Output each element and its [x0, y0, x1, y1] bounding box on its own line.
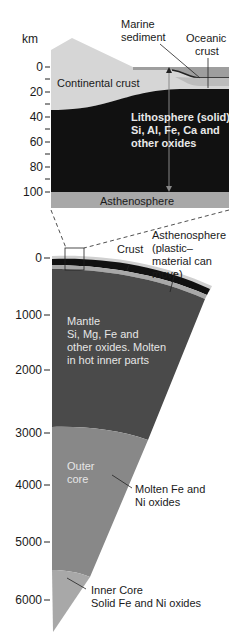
- earth-structure-diagram: km 0 20 40 60 80 100 Marine sediment Oce…: [0, 0, 230, 638]
- lithosphere-label-2: Si, Al, Fe, Ca and: [131, 124, 220, 136]
- tick-5000-km: 5000: [15, 535, 42, 549]
- tick-3000-km: 3000: [15, 426, 42, 440]
- tick-100: 100: [23, 185, 43, 199]
- outer-core-note: Molten Fe and: [135, 483, 205, 495]
- earth-wedge-section: 0 1000 2000 3000 4000 5000 6000 Crust As…: [15, 229, 226, 632]
- tick-0-km: 0: [35, 251, 42, 265]
- tick-40: 40: [30, 110, 44, 124]
- continental-crust-label: Continental crust: [57, 77, 140, 89]
- mantle-label-2: Si, Mg, Fe and: [67, 328, 139, 340]
- mantle-label: Mantle: [67, 315, 100, 327]
- tick-1000-km: 1000: [15, 308, 42, 322]
- mantle-label-3: other oxides. Molten: [67, 341, 166, 353]
- asthenosphere-label-3: material can: [152, 255, 212, 267]
- bottom-axis-ticks: [44, 258, 50, 600]
- marine-sediment-label: Marine: [121, 18, 155, 30]
- outer-core-note-2: Ni oxides: [135, 496, 181, 508]
- tick-60: 60: [30, 135, 44, 149]
- mantle-label-4: in hot inner parts: [67, 354, 149, 366]
- lithosphere-label-3: other oxides: [131, 137, 196, 149]
- outer-core-label: Outer: [67, 460, 95, 472]
- outer-core-label-2: core: [67, 473, 88, 485]
- lithosphere-cross-section: km 0 20 40 60 80 100 Marine sediment Oce…: [22, 18, 230, 208]
- inner-core-label: Inner Core: [91, 584, 143, 596]
- tick-2000-km: 2000: [15, 363, 42, 377]
- asthenosphere-label-2: (plastic–: [152, 242, 194, 254]
- oceanic-crust-label-2: crust: [195, 45, 219, 57]
- tick-80: 80: [30, 160, 44, 174]
- inner-core-region: [52, 570, 90, 632]
- unit-label: km: [22, 32, 38, 46]
- marine-sediment-label-2: sediment: [121, 31, 166, 43]
- asthenosphere-label-4: move): [152, 268, 183, 280]
- outer-core-region: [52, 427, 148, 577]
- inner-core-label-2: Solid Fe and Ni oxides: [91, 597, 202, 609]
- asthenosphere-band-label: Asthenosphere: [100, 195, 174, 207]
- tick-6000-km: 6000: [15, 593, 42, 607]
- top-axis-ticks: [45, 67, 50, 192]
- oceanic-crust-label: Oceanic: [186, 32, 227, 44]
- tick-4000-km: 4000: [15, 478, 42, 492]
- crust-label: Crust: [117, 243, 143, 255]
- lithosphere-label: Lithosphere (solid): [131, 111, 230, 123]
- tick-20: 20: [30, 85, 44, 99]
- tick-0: 0: [36, 60, 43, 74]
- asthenosphere-label: Asthenosphere: [152, 229, 226, 241]
